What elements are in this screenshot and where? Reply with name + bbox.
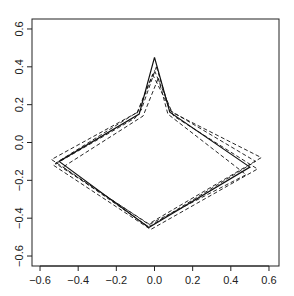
series-line-dashed-4 [53, 71, 257, 230]
chart: −0.6−0.4−0.20.00.20.40.6 −0.6−0.4−0.20.0… [0, 0, 294, 296]
y-tick-label: 0.2 [13, 97, 25, 112]
series-layer [52, 57, 262, 229]
x-tick-label: 0.4 [223, 274, 238, 286]
series-line-dashed-2 [55, 74, 261, 224]
x-tick-label: 0.6 [261, 274, 276, 286]
y-tick-label: 0.6 [13, 21, 25, 36]
plot-frame [32, 19, 279, 266]
y-tick-label: 0.4 [13, 59, 25, 74]
series-line-dashed-3 [63, 78, 246, 226]
y-tick-label: 0.0 [13, 135, 25, 150]
y-tick-label: −0.4 [13, 207, 25, 229]
x-tick-label: 0.2 [185, 274, 200, 286]
y-tick-label: −0.2 [13, 169, 25, 191]
x-tick-label: −0.6 [29, 274, 51, 286]
x-tick-label: 0.0 [147, 274, 162, 286]
y-axis: −0.6−0.4−0.20.00.20.40.6 [13, 21, 32, 267]
series-line-solid [59, 57, 250, 227]
x-tick-label: −0.4 [67, 274, 89, 286]
y-tick-label: −0.6 [13, 245, 25, 267]
x-tick-label: −0.2 [105, 274, 127, 286]
x-axis: −0.6−0.4−0.20.00.20.40.6 [29, 266, 276, 286]
